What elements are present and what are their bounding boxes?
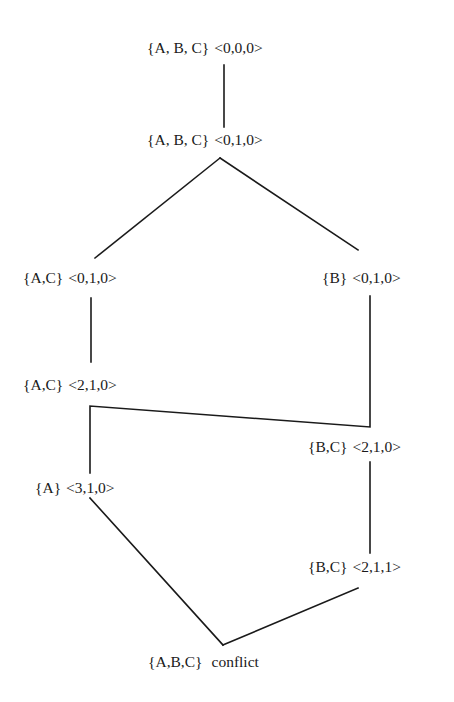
node-ac-210: {A,C}<2,1,0> [23, 376, 117, 394]
node-vector: <0,0,0> [214, 39, 262, 56]
node-vector: <3,1,0> [66, 479, 114, 496]
node-set: {B,C} [308, 558, 347, 575]
node-vector: conflict [212, 653, 259, 670]
node-bc-210: {B,C}<2,1,0> [308, 438, 401, 456]
edge-n8-n9 [223, 588, 358, 645]
node-vector: <0,1,0> [214, 131, 262, 148]
node-set: {A,C} [23, 269, 63, 286]
node-a-310: {A}<3,1,0> [35, 479, 115, 497]
edge-n2-n3 [95, 158, 220, 258]
node-b-010: {B}<0,1,0> [322, 269, 401, 287]
node-set: {A, B, C} [147, 39, 209, 56]
node-set: {A,C} [23, 376, 63, 393]
node-vector: <2,1,1> [352, 558, 400, 575]
node-vector: <0,1,0> [68, 269, 116, 286]
node-root: {A, B, C}<0,0,0> [147, 39, 263, 57]
node-set: {B} [322, 269, 347, 286]
node-set: {A,B,C} [148, 653, 203, 670]
node-vector: <2,1,0> [68, 376, 116, 393]
node-abc-conflict: {A,B,C}conflict [148, 653, 259, 671]
edge-n7-n9 [90, 498, 223, 645]
node-vector: <0,1,0> [352, 269, 400, 286]
node-ac-010: {A,C}<0,1,0> [23, 269, 117, 287]
lattice-diagram [0, 0, 454, 702]
node-vector: <2,1,0> [352, 438, 400, 455]
node-set: {A, B, C} [147, 131, 209, 148]
node-set: {A} [35, 479, 61, 496]
node-bc-211: {B,C}<2,1,1> [308, 558, 401, 576]
edge-n2-n4 [220, 158, 358, 250]
node-set: {B,C} [308, 438, 347, 455]
node-abc-010: {A, B, C}<0,1,0> [147, 131, 263, 149]
